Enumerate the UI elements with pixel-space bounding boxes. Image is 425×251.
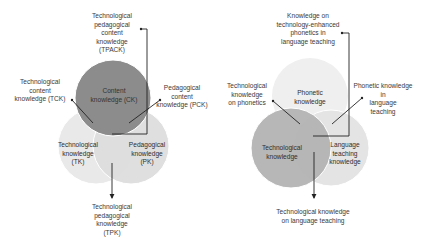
tpack-label: Technological pedagogical content knowle… — [82, 12, 142, 55]
tech-phonetics-label: Technological knowledge on phonetics — [219, 82, 275, 108]
lang-teaching-label: Language teaching knowledge — [320, 141, 370, 167]
tech-label: Technological knowledge — [252, 144, 312, 161]
pck-label: Pedagogical content knowledge (PCK) — [152, 84, 212, 110]
ck-label: Content knowledge (CK) — [88, 87, 140, 104]
center-label: Knowledge on technology-enhanced phoneti… — [272, 12, 344, 46]
phonetic-label: Phonetic knowledge — [284, 89, 336, 106]
tpk-label: Technological pedagogical knowledge (TPK… — [82, 203, 142, 237]
venn-diagrams — [0, 0, 425, 251]
phonetic-lang-label: Phonetic knowledge in language teaching — [350, 82, 416, 116]
tck-label: Technological content knowledge (TCK) — [10, 78, 70, 104]
tk-label: Technological knowledge (TK) — [52, 141, 104, 167]
pk-label: Pedagogical knowledge (PK) — [122, 141, 172, 167]
tech-lang-label: Technological knowledge on language teac… — [268, 208, 358, 225]
